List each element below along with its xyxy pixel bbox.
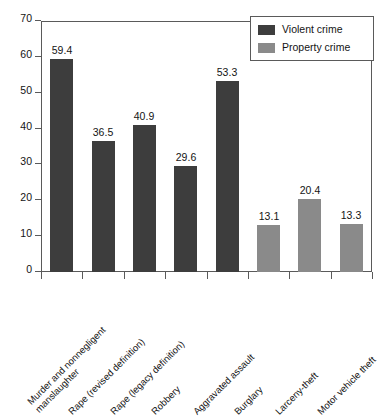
y-axis-tick-label: 70 xyxy=(20,13,32,24)
y-axis-tick-label: 50 xyxy=(20,85,32,96)
x-axis-tick-mark xyxy=(207,272,208,279)
bar xyxy=(340,224,363,272)
bar-value-label: 40.9 xyxy=(118,111,170,122)
bar-value-label: 36.5 xyxy=(77,127,129,138)
x-axis-label: Larceny-theft xyxy=(273,370,320,417)
bar-value-label: 53.3 xyxy=(201,67,253,78)
y-axis-tick-mark xyxy=(35,235,41,236)
bar xyxy=(50,59,73,272)
x-axis-label-line: Robbery xyxy=(149,384,182,417)
x-axis-tick-mark xyxy=(248,272,249,279)
bar-value-label: 29.6 xyxy=(160,152,212,163)
x-axis-tick-mark xyxy=(82,272,83,279)
bar xyxy=(257,225,280,272)
bar-value-label: 13.3 xyxy=(325,210,377,221)
x-axis-tick-mark xyxy=(289,272,290,279)
x-axis-label-line: Larceny-theft xyxy=(273,370,320,417)
y-axis-tick-label: 0 xyxy=(26,264,32,275)
bar xyxy=(92,141,115,272)
x-axis-tick-mark xyxy=(331,272,332,279)
y-axis-tick-label: 20 xyxy=(20,192,32,203)
y-axis-tick-label: 30 xyxy=(20,156,32,167)
bar-value-label: 13.1 xyxy=(243,211,295,222)
y-axis-tick-label: 10 xyxy=(20,228,32,239)
x-axis-tick-mark xyxy=(165,272,166,279)
y-axis: 010203040506070 xyxy=(0,0,41,411)
bar xyxy=(216,81,239,272)
bar-value-label: 20.4 xyxy=(284,185,336,196)
y-axis-tick-mark xyxy=(35,199,41,200)
bar xyxy=(174,166,197,272)
legend-swatch-violent-crime xyxy=(258,25,275,35)
y-axis-tick-mark xyxy=(35,20,41,21)
x-axis-label: Robbery xyxy=(149,384,182,417)
x-axis-label-line: Burglary xyxy=(232,384,265,417)
legend-item: Violent crime xyxy=(258,22,366,37)
legend: Violent crime Property crime xyxy=(250,16,374,61)
legend-item: Property crime xyxy=(258,40,366,55)
bar xyxy=(298,199,321,272)
legend-swatch-property-crime xyxy=(258,43,275,53)
x-axis-label-line: Rape (legacy definition) xyxy=(108,338,186,416)
y-axis-tick-label: 60 xyxy=(20,49,32,60)
x-axis-label: Rape (legacy definition) xyxy=(108,338,186,416)
x-axis-label: Burglary xyxy=(232,384,265,417)
legend-label: Property crime xyxy=(282,42,350,53)
x-axis-tick-mark xyxy=(124,272,125,279)
y-axis-tick-mark xyxy=(35,92,41,93)
x-axis-label: Motor vehicle theft xyxy=(315,354,378,417)
x-axis-tick-mark xyxy=(372,272,373,279)
y-axis-tick-mark xyxy=(35,128,41,129)
bar-value-label: 59.4 xyxy=(36,45,88,56)
bar xyxy=(133,125,156,272)
legend-label: Violent crime xyxy=(282,24,343,35)
x-axis-label-line: Motor vehicle theft xyxy=(315,354,378,417)
x-axis-tick-mark xyxy=(41,272,42,279)
y-axis-tick-label: 40 xyxy=(20,121,32,132)
y-axis-tick-mark xyxy=(35,163,41,164)
